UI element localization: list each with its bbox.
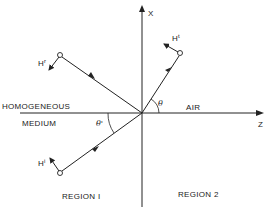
transmitted-point-icon — [178, 51, 183, 56]
reflection-refraction-diagram: X Z HOMOGENEOUS MEDIUM AIR REGION I REGI… — [0, 0, 278, 217]
region-1-label: REGION I — [62, 192, 100, 201]
reflected-field-label: Hr — [38, 58, 46, 68]
medium-label-medium: MEDIUM — [22, 119, 56, 128]
reflected-point-icon — [58, 53, 63, 58]
transmitted-ray-arrow-icon — [165, 67, 172, 72]
x-axis-label: X — [148, 9, 154, 18]
medium-label-air: AIR — [186, 103, 200, 112]
z-axis-label: Z — [258, 120, 263, 129]
transmitted-field-label: Ht — [172, 33, 180, 43]
theta-prime-arc-icon — [108, 113, 114, 133]
theta-label: θ — [158, 99, 163, 108]
region-2-label: REGION 2 — [178, 190, 219, 199]
medium-label-homogeneous: HOMOGENEOUS — [2, 102, 70, 111]
theta-prime-label: θ' — [96, 119, 103, 128]
x-axis-arrowhead-icon — [139, 5, 145, 12]
incident-field-label: Hi — [38, 158, 46, 168]
z-axis-arrowhead-icon — [256, 110, 264, 116]
incident-point-icon — [58, 171, 63, 176]
